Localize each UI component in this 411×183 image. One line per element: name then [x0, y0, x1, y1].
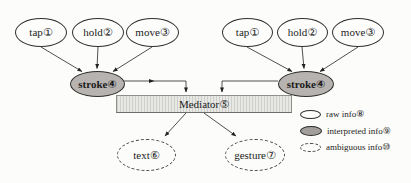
- node-gesture-output-label: gesture⑦: [234, 150, 276, 161]
- arrow-tap-left-to-stroke: [41, 47, 82, 72]
- arrow-mediator-to-gesture: [204, 113, 236, 136]
- node-tap-right: tap①: [222, 18, 273, 47]
- node-stroke-left: stroke④: [70, 71, 125, 97]
- node-move-left: move③: [126, 18, 179, 47]
- node-stroke-right: stroke④: [278, 71, 334, 97]
- interpreted-ellipse-icon: [300, 126, 322, 136]
- node-text-output: text⑥: [117, 139, 176, 171]
- arrow-mediator-to-text: [165, 113, 186, 136]
- node-hold-right-label: hold②: [288, 27, 317, 38]
- arrow-move-left-to-stroke: [113, 47, 152, 72]
- gesture-mediator-diagram: tap① hold② move③ stroke④ tap① hold② move…: [0, 0, 411, 183]
- node-hold-left: hold②: [72, 18, 124, 47]
- arrow-stroke-right-to-mediator: [222, 81, 278, 92]
- node-hold-right: hold②: [277, 18, 328, 47]
- node-mediator-label: Mediator⑤: [179, 99, 229, 110]
- raw-ellipse-icon: [300, 110, 321, 119]
- arrow-move-right-to-stroke: [320, 47, 358, 72]
- node-text-output-label: text⑥: [133, 150, 159, 161]
- legend-label-ambiguous: ambiguous info⑩: [326, 143, 390, 152]
- legend: raw info⑧ interpreted info⑨ ambiguous in…: [300, 110, 410, 152]
- node-move-right-label: move③: [341, 27, 375, 38]
- node-move-left-label: move③: [135, 27, 169, 38]
- legend-item-ambiguous: ambiguous info⑩: [300, 143, 410, 152]
- ambiguous-ellipse-icon: [300, 143, 321, 152]
- node-tap-left-label: tap①: [29, 27, 52, 38]
- node-gesture-output: gesture⑦: [225, 139, 285, 171]
- arrow-hold-right-to-stroke: [302, 47, 304, 69]
- node-move-right: move③: [332, 18, 384, 47]
- legend-item-interpreted: interpreted info⑨: [300, 126, 410, 136]
- node-stroke-right-label: stroke④: [287, 79, 325, 90]
- node-hold-left-label: hold②: [83, 27, 112, 38]
- arrow-tap-right-to-stroke: [247, 47, 292, 72]
- arrow-hold-left-to-stroke: [97, 47, 98, 69]
- direction-tick-icon: [149, 79, 155, 83]
- node-stroke-left-label: stroke④: [78, 79, 116, 90]
- node-tap-right-label: tap①: [236, 27, 259, 38]
- node-tap-left: tap①: [15, 18, 67, 47]
- legend-label-interpreted: interpreted info⑨: [327, 127, 391, 136]
- node-mediator: Mediator⑤: [116, 95, 292, 113]
- arrow-stroke-left-to-mediator: [124, 81, 186, 92]
- legend-item-raw: raw info⑧: [300, 110, 410, 119]
- legend-label-raw: raw info⑧: [326, 110, 364, 119]
